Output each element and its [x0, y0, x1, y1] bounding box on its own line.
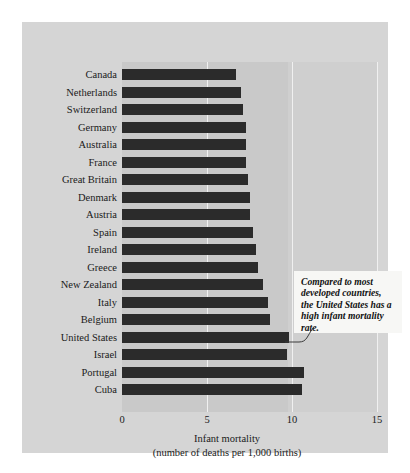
x-axis-title-line2: (number of deaths per 1,000 births)	[44, 446, 410, 460]
annotation-callout: Compared to most developed countries, th…	[294, 271, 402, 333]
bar	[122, 244, 256, 255]
bar-row: Cuba	[122, 381, 377, 399]
category-label: Italy	[98, 294, 117, 311]
x-axis-ticks: 051015	[122, 414, 377, 430]
bar	[122, 192, 250, 203]
gridline-15	[377, 62, 378, 412]
bar	[122, 279, 263, 290]
bar-row: Netherlands	[122, 84, 377, 102]
bar-row: Spain	[122, 224, 377, 242]
category-label: Austria	[86, 206, 117, 223]
bar-row: Portugal	[122, 364, 377, 382]
category-label: Switzerland	[67, 101, 117, 118]
x-tick-label: 10	[287, 414, 298, 425]
bar	[122, 262, 258, 273]
x-tick-label: 5	[204, 414, 209, 425]
chart-figure-panel: CanadaNetherlandsSwitzerlandGermanyAustr…	[22, 22, 388, 453]
category-label: Denmark	[78, 189, 117, 206]
bar	[122, 297, 268, 308]
bar-row: Canada	[122, 66, 377, 84]
x-axis-title: Infant mortality (number of deaths per 1…	[44, 432, 410, 459]
bar	[122, 227, 253, 238]
x-axis-title-line1: Infant mortality	[44, 432, 410, 446]
category-label: Israel	[94, 346, 117, 363]
category-label: Netherlands	[66, 84, 117, 101]
category-label: Australia	[79, 136, 118, 153]
category-label: Spain	[93, 224, 117, 241]
bar-row: Austria	[122, 206, 377, 224]
x-tick-label: 0	[119, 414, 124, 425]
category-label: France	[88, 154, 117, 171]
category-label: United States	[61, 329, 117, 346]
bar	[122, 349, 287, 360]
category-label: Belgium	[81, 311, 117, 328]
bar	[122, 332, 289, 343]
bar	[122, 174, 248, 185]
bar	[122, 87, 241, 98]
category-label: Ireland	[87, 241, 117, 258]
bar	[122, 122, 246, 133]
category-label: New Zealand	[61, 276, 117, 293]
category-label: Germany	[78, 119, 117, 136]
bar	[122, 69, 236, 80]
category-label: Portugal	[81, 364, 117, 381]
annotation-text: Compared to most developed countries, th…	[301, 276, 392, 333]
category-label: Great Britain	[62, 171, 117, 188]
x-tick-label: 15	[372, 414, 383, 425]
bar	[122, 367, 304, 378]
bar	[122, 314, 270, 325]
bar-row: Ireland	[122, 241, 377, 259]
bar	[122, 384, 302, 395]
category-label: Canada	[86, 66, 118, 83]
plot-area: CanadaNetherlandsSwitzerlandGermanyAustr…	[122, 62, 377, 412]
bar	[122, 209, 250, 220]
category-label: Greece	[87, 259, 117, 276]
bar-row: Germany	[122, 119, 377, 137]
bar-rows: CanadaNetherlandsSwitzerlandGermanyAustr…	[122, 62, 377, 412]
bar-row: Denmark	[122, 189, 377, 207]
bar-row: France	[122, 154, 377, 172]
bar	[122, 157, 246, 168]
bar	[122, 104, 243, 115]
bar-row: Great Britain	[122, 171, 377, 189]
bar-row: Australia	[122, 136, 377, 154]
bar-row: Switzerland	[122, 101, 377, 119]
category-label: Cuba	[95, 381, 117, 398]
bar-row: Israel	[122, 346, 377, 364]
bar	[122, 139, 246, 150]
